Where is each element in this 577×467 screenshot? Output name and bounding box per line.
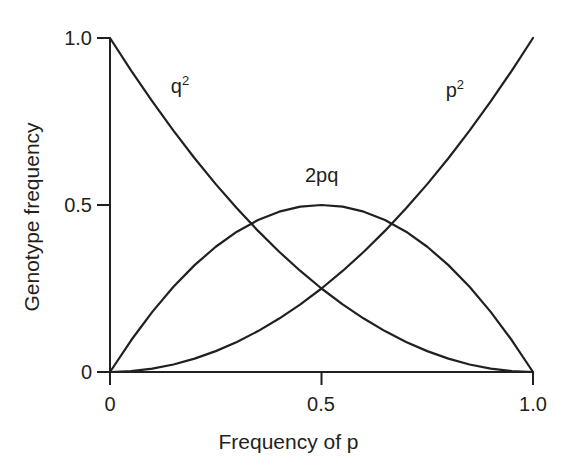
y-tick-label-1: 1.0 [34, 28, 92, 48]
x-tick-label-1: 1.0 [503, 394, 563, 414]
x-tick-label-0point5: 0.5 [291, 394, 351, 414]
hardy-weinberg-chart: 1.0 0.5 0 0 0.5 1.0 q2 2pq p2 Frequency … [0, 0, 577, 467]
x-axis-title: Frequency of p [0, 430, 577, 454]
curve-label-p2: p2 [446, 80, 464, 100]
curve-label-q2-text: q [171, 75, 182, 97]
x-tick-label-0: 0 [80, 394, 140, 414]
curve-label-p2-exponent: 2 [457, 77, 464, 92]
curve-label-q2-exponent: 2 [182, 74, 189, 89]
y-axis-ticks [97, 38, 110, 372]
curve-label-q2: q2 [171, 76, 189, 96]
curve-label-p2-text: p [446, 79, 457, 101]
curve-label-2pq-text: 2pq [305, 164, 338, 186]
y-axis-title: Genotype frequency [20, 97, 44, 337]
x-axis-ticks [110, 372, 533, 385]
y-tick-label-0: 0 [34, 362, 92, 382]
curve-label-2pq: 2pq [305, 165, 338, 185]
